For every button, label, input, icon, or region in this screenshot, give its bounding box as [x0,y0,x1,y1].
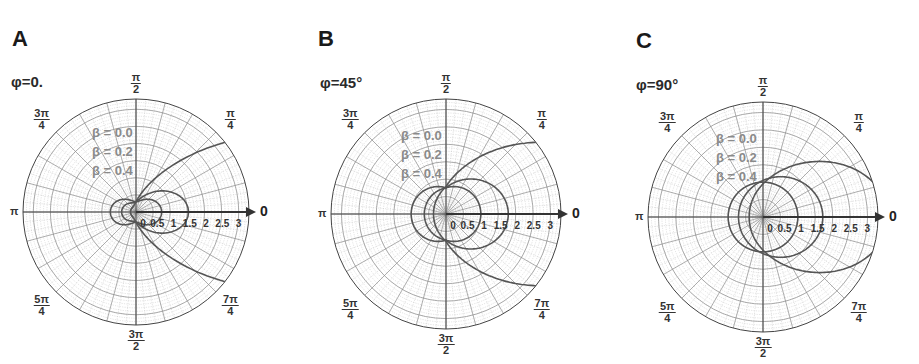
angle-label-0: 0 [572,205,580,221]
radial-tick-label: 2 [514,220,520,231]
frac-denominator: 4 [537,120,547,131]
angle-label-0: 0 [260,203,268,219]
radial-tick-label: 2 [203,218,209,229]
beta-legend: β = 0.0β = 0.2β = 0.4 [92,123,133,180]
frac-denominator: 4 [342,310,359,321]
radial-tick-label: 2 [831,223,837,234]
radial-tick-label: 2.5 [844,223,858,234]
frac-denominator: 2 [441,84,451,95]
legend-entry: β = 0.2 [401,145,442,164]
angle-label-pi-4: π4 [225,108,235,131]
radial-tick-label: 1.5 [183,218,197,229]
angle-label-pi: π [635,210,643,222]
legend-entry: β = 0.4 [716,167,757,186]
radial-tick-label: 1 [798,223,804,234]
frac-denominator: 2 [128,341,145,352]
frac-denominator: 2 [438,345,455,356]
angle-label-3pi-4: 3π4 [33,108,50,131]
frac-denominator: 4 [851,313,868,324]
radial-tick-label: 2.5 [527,220,541,231]
radial-tick-label: 1.5 [494,220,508,231]
arrow-head-icon [558,209,568,219]
legend-entry: β = 0.0 [92,123,133,142]
angle-label-5pi-4: 5π4 [33,294,50,317]
angle-label-pi: π [318,207,326,219]
frac-denominator: 4 [342,120,359,131]
legend-entry: β = 0.0 [401,126,442,145]
radial-tick-label: 1 [171,218,177,229]
frac-denominator: 2 [758,87,768,98]
polar-chart-a [23,99,405,325]
angle-label-7pi-4: 7π4 [222,294,239,317]
frac-denominator: 4 [659,123,676,134]
frac-denominator: 2 [131,84,141,95]
legend-entry: β = 0.2 [716,148,757,167]
legend-entry: β = 0.4 [92,161,133,180]
angle-label-5pi-4: 5π4 [659,301,676,324]
angle-label-3pi-2: 3π2 [128,329,145,352]
beta-legend: β = 0.0β = 0.2β = 0.4 [716,129,757,186]
angle-label-pi-4: π4 [537,108,547,131]
legend-entry: β = 0.4 [401,164,442,183]
polar-chart-b [331,99,634,329]
arrow-head-icon [246,207,256,217]
frac-denominator: 4 [33,306,50,317]
radial-tick-label: 3 [236,218,242,229]
radial-tick-label: 0.5 [150,218,164,229]
radial-tick-label: 0.5 [461,220,475,231]
grid-spoke-major [652,217,763,247]
angle-label-3pi-4: 3π4 [342,108,359,131]
frac-denominator: 4 [225,120,235,131]
angle-label-pi-2: π2 [131,72,141,95]
radial-tick-label: 2.5 [215,218,229,229]
radial-tick-label: 0 [767,223,773,234]
angle-label-3pi-4: 3π4 [659,111,676,134]
grid-spoke-minor [136,202,249,212]
frac-denominator: 4 [659,313,676,324]
radial-tick-label: 0.5 [778,223,792,234]
grid-spoke-minor [43,212,136,277]
radial-tick-label: 1 [481,220,487,231]
radial-tick-label: 1.5 [811,223,825,234]
angle-label-3pi-2: 3π2 [438,333,455,356]
grid-spoke-major [107,212,136,321]
frac-denominator: 4 [534,310,551,321]
grid-spoke-major [763,187,874,217]
grid-spoke-major [652,187,763,217]
polar-chart-c [648,102,888,332]
radial-tick-label: 0 [450,220,456,231]
legend-entry: β = 0.0 [716,129,757,148]
frac-denominator: 4 [33,120,50,131]
grid-spoke-minor [407,214,446,322]
beta-legend: β = 0.0β = 0.2β = 0.4 [401,126,442,183]
grid-spoke-minor [724,217,763,325]
polar-plots [0,0,919,364]
angle-label-pi-2: π2 [758,75,768,98]
angle-label-3pi-2: 3π2 [755,336,772,359]
grid-spoke-minor [136,147,229,212]
angle-label-pi-2: π2 [441,72,451,95]
angle-label-pi-4: π4 [854,111,864,134]
legend-entry: β = 0.2 [92,142,133,161]
radial-tick-label: 0 [140,218,146,229]
grid-spoke-major [27,212,136,241]
angle-label-0: 0 [889,208,897,224]
frac-denominator: 4 [222,306,239,317]
frac-denominator: 4 [854,123,864,134]
angle-label-5pi-4: 5π4 [342,298,359,321]
radial-tick-label: 3 [865,223,871,234]
angle-label-pi: π [10,205,18,217]
arrow-head-icon [875,212,885,222]
angle-label-7pi-4: 7π4 [534,298,551,321]
angle-label-7pi-4: 7π4 [851,301,868,324]
frac-denominator: 2 [755,348,772,359]
radial-tick-label: 3 [548,220,554,231]
